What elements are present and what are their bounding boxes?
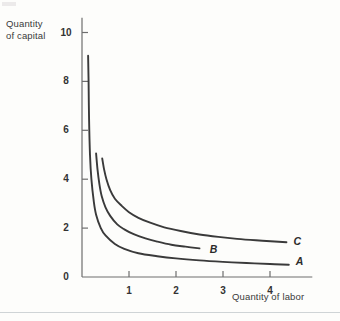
plot-area xyxy=(0,0,340,321)
x-tick-label-3: 3 xyxy=(213,285,233,296)
x-tick-label-2: 2 xyxy=(166,285,186,296)
curve-label-a: A xyxy=(296,255,304,267)
y-axis-title-line2: of capital xyxy=(6,30,46,42)
y-axis-title-line1: Quantity xyxy=(6,18,46,30)
y-tick-label-8: 8 xyxy=(56,75,76,86)
y-tick-label-4: 4 xyxy=(56,173,76,184)
isoquant-chart-figure: Quantity of capital Quantity of labor 10… xyxy=(0,0,340,321)
isoquant-curve-c xyxy=(102,158,286,242)
page-bottom-rule xyxy=(0,312,340,313)
curve-label-b: B xyxy=(210,243,218,255)
y-axis-title: Quantity of capital xyxy=(6,18,46,41)
isoquant-curves xyxy=(88,56,289,265)
origin-tick-label: 0 xyxy=(56,271,76,282)
x-tick-label-1: 1 xyxy=(119,285,139,296)
axis-lines xyxy=(82,18,312,277)
isoquant-curve-b xyxy=(96,154,199,249)
x-tick-label-4: 4 xyxy=(260,285,280,296)
y-tick-label-10: 10 xyxy=(56,27,76,38)
y-tick-label-6: 6 xyxy=(56,124,76,135)
y-tick-label-2: 2 xyxy=(56,222,76,233)
curve-label-c: C xyxy=(294,235,302,247)
